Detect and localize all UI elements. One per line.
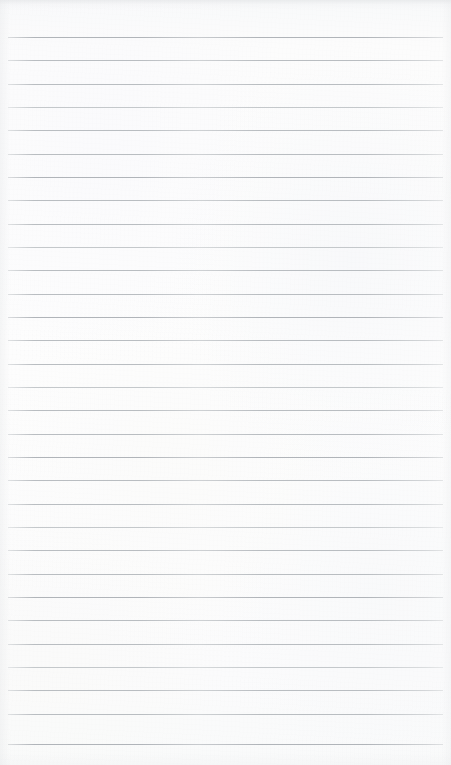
writing-area[interactable] [8, 14, 443, 750]
notebook-page [0, 0, 451, 765]
